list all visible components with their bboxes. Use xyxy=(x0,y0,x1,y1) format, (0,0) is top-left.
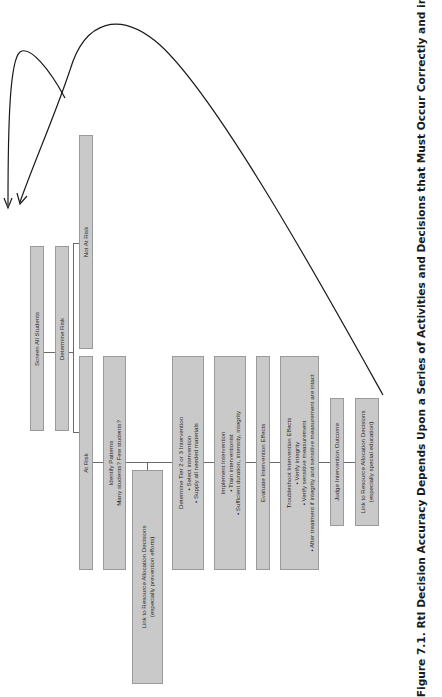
curved-arrow-short-icon xyxy=(4,51,65,208)
curved-arrow-long-icon xyxy=(17,24,383,395)
figure-caption: Figure 7.1. RtI Decision Accuracy Depend… xyxy=(415,0,427,697)
